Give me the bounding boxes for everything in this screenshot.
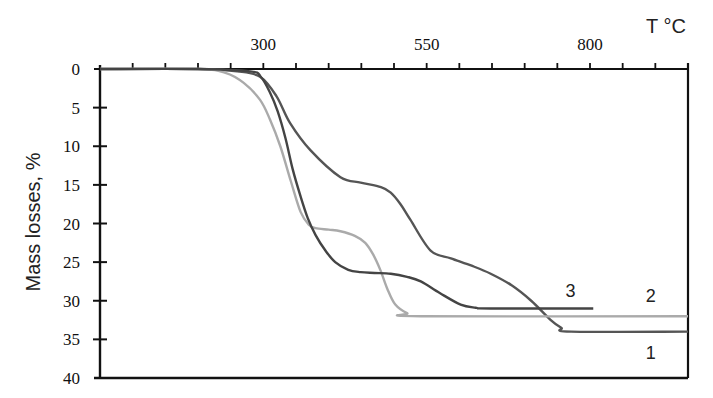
series-line-1: [100, 69, 688, 332]
y-tick-label: 15: [63, 176, 80, 195]
x-tick-label: 550: [414, 35, 440, 54]
curve-label-1: 1: [646, 343, 656, 363]
x-axis-ticks: 300550800: [133, 35, 656, 69]
y-tick-label: 30: [63, 292, 80, 311]
y-tick-label: 0: [72, 60, 81, 79]
x-axis-title: T °C: [646, 15, 686, 37]
y-tick-label: 25: [63, 253, 80, 272]
series-group: [100, 69, 688, 332]
x-tick-label: 800: [577, 35, 603, 54]
curve-label-3: 3: [565, 281, 575, 301]
curve-labels: 321: [565, 281, 655, 363]
series-line-3: [100, 69, 593, 309]
y-tick-label: 10: [63, 137, 80, 156]
tga-chart: 300550800 0510152025303540 321 T °C Mass…: [0, 0, 713, 398]
y-tick-label: 35: [63, 330, 80, 349]
y-tick-label: 20: [63, 215, 80, 234]
y-tick-label: 40: [63, 369, 80, 388]
curve-label-2: 2: [646, 286, 656, 306]
x-tick-label: 300: [251, 35, 277, 54]
y-tick-label: 5: [72, 99, 81, 118]
y-axis-title: Mass losses, %: [22, 152, 44, 291]
series-line-2: [100, 69, 688, 317]
